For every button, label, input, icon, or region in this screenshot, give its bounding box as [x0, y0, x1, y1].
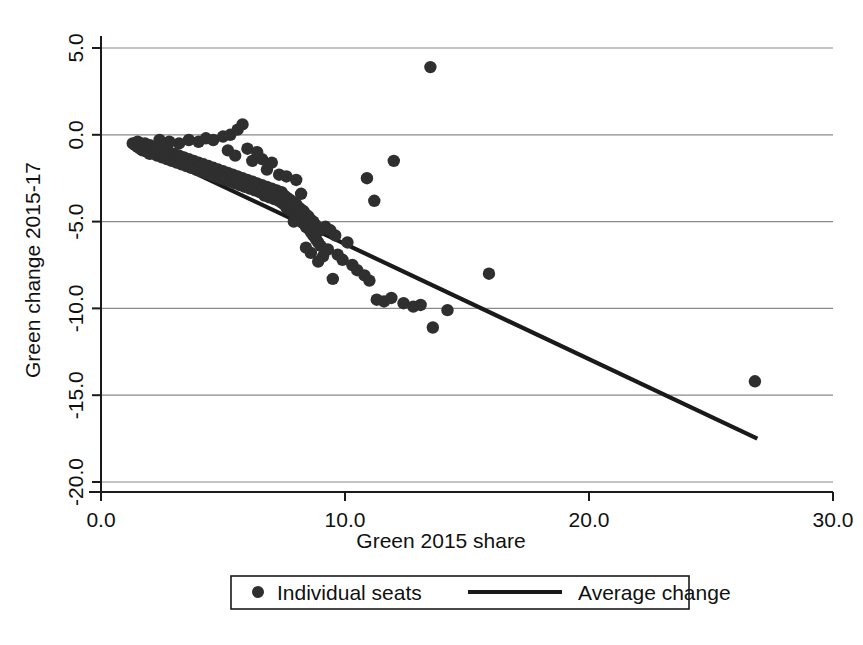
scatter-point [295, 188, 307, 200]
scatter-point [441, 304, 453, 316]
scatter-point [361, 172, 373, 184]
x-tick-label-2: 20.0 [569, 508, 610, 531]
scatter-point [363, 274, 375, 286]
scatter-point [385, 292, 397, 304]
scatter-point [414, 299, 426, 311]
y-axis-title: Green change 2015-17 [21, 162, 44, 378]
scatter-point [261, 163, 273, 175]
scatter-point [368, 195, 380, 207]
y-tick-label-5: -20.0 [64, 458, 87, 506]
legend-label-average-change: Average change [578, 581, 731, 604]
legend: Individual seats Average change [231, 576, 731, 609]
scatter-point [236, 118, 248, 130]
scatter-point [388, 155, 400, 167]
scatter-plot-svg: 0.010.020.030.0 5.00.0-5.0-10.0-15.0-20.… [0, 0, 863, 645]
scatter-point [229, 149, 241, 161]
legend-dot-icon [252, 586, 264, 598]
y-tick-label-3: -10.0 [64, 284, 87, 332]
scatter-point [749, 375, 761, 387]
scatter-point [153, 134, 165, 146]
scatter-point [424, 61, 436, 73]
x-tick-label-1: 10.0 [325, 508, 366, 531]
y-tick-label-1: 0.0 [64, 120, 87, 149]
legend-label-individual-seats: Individual seats [277, 581, 422, 604]
x-tick-label-0: 0.0 [86, 508, 115, 531]
scatter-point [341, 236, 353, 248]
scatter-point [290, 174, 302, 186]
scatter-point [483, 267, 495, 279]
scatter-point [288, 215, 300, 227]
scatter-point [312, 255, 324, 267]
scatter-point [327, 273, 339, 285]
y-tick-label-4: -15.0 [64, 371, 87, 419]
scatter-point [251, 146, 263, 158]
scatter-point [300, 241, 312, 253]
x-tick-label-3: 30.0 [813, 508, 854, 531]
x-axis-title: Green 2015 share [356, 529, 525, 552]
scatter-point [329, 229, 341, 241]
scatter-point [427, 321, 439, 333]
y-tick-label-0: 5.0 [64, 33, 87, 62]
y-tick-label-2: -5.0 [64, 204, 87, 240]
chart-figure: 0.010.020.030.0 5.00.0-5.0-10.0-15.0-20.… [0, 0, 863, 645]
